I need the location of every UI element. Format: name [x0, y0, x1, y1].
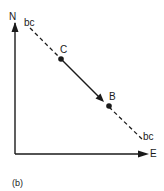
bc-line-upper-dashed: [30, 28, 61, 59]
figure-caption: (b): [12, 178, 23, 188]
point-c-label: C: [60, 45, 67, 55]
n-axis-label: N: [9, 12, 16, 22]
bc-line-lower-dashed: [109, 107, 142, 139]
bc-label-start: bc: [24, 18, 35, 28]
diagram-figure: N E bc bc C B (b): [0, 0, 164, 191]
diagram-canvas: [0, 0, 164, 191]
e-axis-label: E: [150, 149, 157, 159]
cb-vector: [61, 59, 102, 100]
point-b-label: B: [109, 92, 116, 102]
n-axis-arrow-icon: [12, 22, 19, 32]
e-axis-arrow-icon: [138, 151, 149, 158]
point-b-dot: [106, 103, 112, 109]
point-c-dot: [58, 56, 64, 62]
bc-label-end: bc: [143, 132, 154, 142]
